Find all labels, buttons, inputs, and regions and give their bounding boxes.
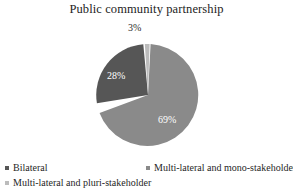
pie-plot-area: 69% 28% 3% <box>88 22 208 148</box>
legend-item-label: Multi-lateral and mono-stakeholder <box>154 162 293 174</box>
legend-swatch-icon <box>5 166 9 170</box>
pie-slice-bilateral[interactable] <box>96 44 148 103</box>
chart-legend: Bilateral Multi-lateral and mono-stakeho… <box>0 158 293 191</box>
pie-chart-figure: Public community partnership 69% 28% 3% … <box>0 0 293 191</box>
chart-title: Public community partnership <box>0 2 293 16</box>
legend-item-label: Bilateral <box>13 162 47 174</box>
legend-item-bilateral[interactable]: Bilateral <box>5 162 47 174</box>
pie-svg <box>88 22 208 148</box>
legend-swatch-icon <box>5 181 9 185</box>
legend-item-multi-lateral-pluri-stakeholder[interactable]: Multi-lateral and pluri-stakeholder <box>5 177 151 189</box>
legend-item-label: Multi-lateral and pluri-stakeholder <box>13 177 151 189</box>
legend-item-multi-lateral-mono-stakeholder[interactable]: Multi-lateral and mono-stakeholder <box>146 162 293 174</box>
legend-swatch-icon <box>146 166 150 170</box>
